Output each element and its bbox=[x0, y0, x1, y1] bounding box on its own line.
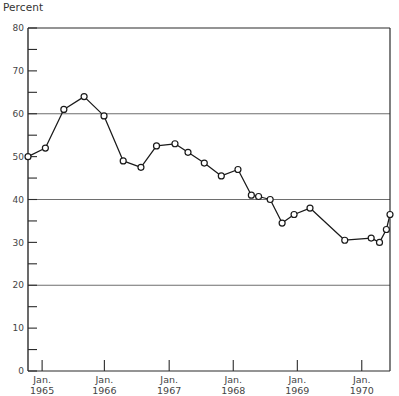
data-point-marker bbox=[138, 164, 144, 170]
y-axis-ticks-group bbox=[28, 28, 37, 371]
data-point-marker bbox=[61, 106, 67, 112]
y-axis-tick-label: 40 bbox=[13, 195, 25, 205]
x-axis-tick-label-year: 1970 bbox=[350, 385, 374, 396]
x-axis-tick-label-year: 1969 bbox=[285, 385, 309, 396]
data-point-marker bbox=[81, 94, 87, 100]
series-markers bbox=[25, 94, 393, 246]
data-point-marker bbox=[172, 141, 178, 147]
x-axis-tick-label-year: 1968 bbox=[221, 385, 245, 396]
data-point-marker bbox=[185, 149, 191, 155]
series-line bbox=[28, 97, 390, 243]
y-axis-tick-label: 20 bbox=[13, 280, 25, 290]
y-axis-title: Percent bbox=[3, 1, 43, 13]
data-point-marker bbox=[248, 192, 254, 198]
y-axis-labels-group: 01020304050607080 bbox=[13, 23, 25, 376]
x-axis-tick-label-month: Jan. bbox=[32, 374, 51, 385]
data-point-marker bbox=[101, 113, 107, 119]
data-point-marker bbox=[267, 197, 273, 203]
data-point-marker bbox=[368, 235, 374, 241]
gridlines-group bbox=[28, 114, 390, 286]
x-axis-tick-label-year: 1965 bbox=[30, 385, 54, 396]
data-point-marker bbox=[291, 212, 297, 218]
data-point-marker bbox=[42, 145, 48, 151]
data-point-marker bbox=[201, 160, 207, 166]
y-axis-tick-label: 60 bbox=[13, 109, 25, 119]
data-point-marker bbox=[218, 173, 224, 179]
data-point-marker bbox=[154, 143, 160, 149]
data-point-marker bbox=[383, 227, 389, 233]
y-axis-tick-label: 30 bbox=[13, 238, 25, 248]
data-point-marker bbox=[307, 205, 313, 211]
y-axis-tick-label: 50 bbox=[13, 152, 25, 162]
data-point-marker bbox=[279, 220, 285, 226]
data-point-marker bbox=[377, 239, 383, 245]
percent-line-chart: Percent 01020304050607080 Jan.1965Jan.19… bbox=[0, 0, 399, 396]
x-axis-tick-label-month: Jan. bbox=[352, 374, 371, 385]
y-axis-tick-label: 80 bbox=[13, 23, 25, 33]
data-point-marker bbox=[235, 166, 241, 172]
data-point-marker bbox=[25, 154, 31, 160]
x-axis-tick-label-month: Jan. bbox=[159, 374, 178, 385]
y-axis-tick-label: 10 bbox=[13, 323, 25, 333]
data-point-marker bbox=[120, 158, 126, 164]
x-axis-ticks-group bbox=[42, 360, 362, 371]
y-axis-tick-label: 70 bbox=[13, 66, 25, 76]
x-axis-tick-label-month: Jan. bbox=[287, 374, 306, 385]
x-axis-tick-label-month: Jan. bbox=[223, 374, 242, 385]
x-axis-tick-label-year: 1967 bbox=[157, 385, 181, 396]
data-series-group bbox=[25, 94, 393, 246]
chart-canvas: 01020304050607080 Jan.1965Jan.1966Jan.19… bbox=[0, 0, 399, 396]
data-point-marker bbox=[256, 194, 262, 200]
data-point-marker bbox=[387, 212, 393, 218]
x-axis-labels-group: Jan.1965Jan.1966Jan.1967Jan.1968Jan.1969… bbox=[30, 374, 374, 396]
y-axis-tick-label: 0 bbox=[18, 366, 24, 376]
x-axis-tick-label-year: 1966 bbox=[92, 385, 116, 396]
data-point-marker bbox=[342, 237, 348, 243]
x-axis-tick-label-month: Jan. bbox=[95, 374, 114, 385]
